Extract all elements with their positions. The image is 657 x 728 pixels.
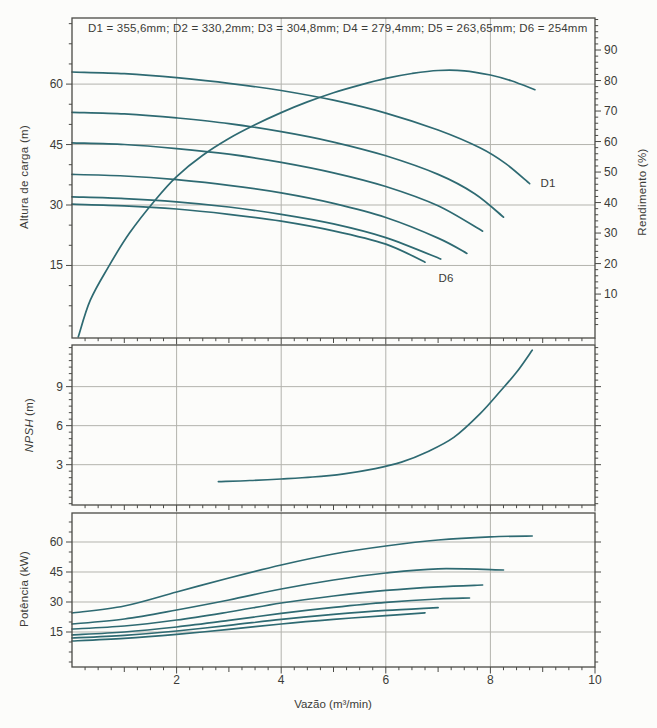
tick-label: 45 (50, 138, 64, 152)
curve-D2 (72, 569, 504, 624)
curve-NPSH (218, 350, 532, 481)
curve-label-D6: D6 (439, 272, 454, 284)
x-tick-label: 6 (382, 673, 389, 687)
tick-label: 30 (604, 226, 618, 240)
tick-label: 90 (604, 43, 618, 57)
pump-performance-figure: 15304560102030405060708090D1D63691530456… (0, 0, 657, 728)
tick-label: 6 (56, 419, 63, 433)
tick-label: 3 (56, 458, 63, 472)
pump-curves-page: 15304560102030405060708090D1D63691530456… (0, 0, 657, 728)
curve-D3 (72, 143, 483, 231)
curve-D1 (72, 536, 532, 613)
x-tick-label: 8 (487, 673, 494, 687)
ylabel-rendimento: Rendimento (%) (636, 148, 648, 235)
tick-label: 70 (604, 104, 618, 118)
tick-label: 40 (604, 196, 618, 210)
tick-label: 10 (604, 287, 618, 301)
tick-label: 20 (604, 257, 618, 271)
tick-label: 9 (56, 380, 63, 394)
curve-D2 (72, 112, 504, 217)
chart-frame (72, 345, 595, 505)
curve-label-D1: D1 (541, 177, 556, 189)
tick-label: 60 (604, 135, 618, 149)
curve-Rendimento (78, 70, 535, 337)
x-tick-label: 10 (588, 673, 602, 687)
ylabel-head: Altura de carga (m) (18, 125, 30, 229)
tick-label: 50 (604, 165, 618, 179)
ylabel-npsh-unit: (m) (23, 398, 35, 416)
tick-label: 15 (50, 258, 64, 272)
tick-label: 15 (50, 625, 64, 639)
ylabel-npsh: NPSH(m) (23, 398, 35, 452)
curve-D1 (72, 72, 530, 184)
x-tick-label: 4 (278, 673, 285, 687)
xlabel-vazao: Vazão (m³/min) (294, 698, 372, 710)
curve-D4 (72, 174, 467, 253)
legend-impeller-diameters: D1 = 355,6mm; D2 = 330,2mm; D3 = 304,8mm… (88, 22, 587, 34)
tick-label: 80 (604, 74, 618, 88)
tick-label: 60 (50, 77, 64, 91)
tick-label: 60 (50, 535, 64, 549)
tick-label: 30 (50, 198, 64, 212)
tick-label: 30 (50, 595, 64, 609)
curve-D3 (72, 585, 483, 629)
tick-label: 45 (50, 565, 64, 579)
ylabel-npsh-acronym: NPSH (23, 419, 35, 452)
ylabel-potencia: Potência (kW) (18, 551, 30, 627)
curve-D5 (72, 608, 438, 638)
x-tick-label: 2 (173, 673, 180, 687)
